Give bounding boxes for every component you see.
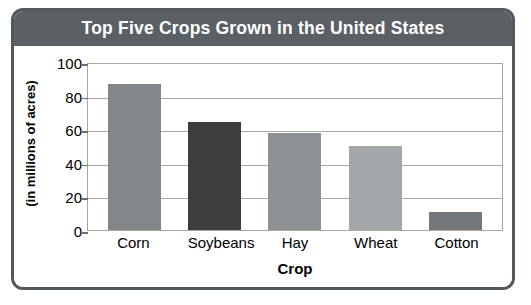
y-axis-tick-labels: 020406080100 bbox=[40, 63, 82, 231]
y-axis-title-text: (in millions of acres) bbox=[23, 80, 38, 206]
y-tick-label: 100 bbox=[57, 55, 82, 72]
y-tick-label: 80 bbox=[65, 88, 82, 105]
y-tick-label: 60 bbox=[65, 122, 82, 139]
chart-title-bar: Top Five Crops Grown in the United State… bbox=[14, 11, 512, 46]
bar-wheat bbox=[349, 146, 402, 230]
bar-corn bbox=[108, 84, 161, 230]
x-axis-tick-labels: CornSoybeansHayWheatCotton bbox=[87, 234, 503, 251]
chart-figure-frame: Top Five Crops Grown in the United State… bbox=[11, 8, 515, 290]
y-tick-label: 40 bbox=[65, 155, 82, 172]
x-tick-label: Soybeans bbox=[188, 234, 241, 251]
x-tick-label: Wheat bbox=[349, 234, 402, 251]
bars-layer bbox=[88, 64, 502, 230]
x-tick-label: Corn bbox=[107, 234, 160, 251]
bar-cotton bbox=[429, 212, 482, 230]
bar-soybeans bbox=[188, 122, 241, 230]
y-tick-label: 20 bbox=[65, 189, 82, 206]
y-tick-label: 0 bbox=[74, 223, 82, 240]
chart-title: Top Five Crops Grown in the United State… bbox=[82, 18, 445, 39]
x-axis-title: Crop bbox=[87, 260, 503, 277]
plot-region: (in millions of acres) 020406080100 Corn… bbox=[14, 46, 512, 287]
x-tick-label: Hay bbox=[268, 234, 321, 251]
plot-area bbox=[87, 63, 503, 231]
bar-hay bbox=[268, 133, 321, 230]
x-tick-label: Cotton bbox=[430, 234, 483, 251]
y-axis-title: (in millions of acres) bbox=[20, 58, 40, 228]
